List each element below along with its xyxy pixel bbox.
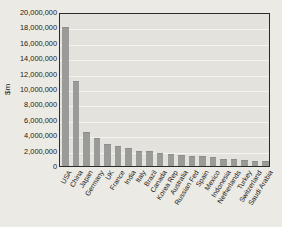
bar: [168, 154, 175, 166]
y-axis-tick-labels: 20,000,00018,000,00016,000,00014,000,000…: [8, 9, 57, 167]
y-axis-tick-label: 10,000,000: [8, 86, 57, 94]
y-axis-tick-label: 4,000,000: [8, 132, 57, 140]
bar: [178, 155, 185, 166]
bars-layer: [60, 14, 269, 166]
y-axis-tick-label: 0: [8, 163, 57, 171]
bar: [231, 159, 238, 166]
y-axis-tick-label: 8,000,000: [8, 101, 57, 109]
bar: [189, 156, 196, 166]
y-axis-tick-label: 14,000,000: [8, 55, 57, 63]
y-axis-tick-label: 6,000,000: [8, 117, 57, 125]
bar: [73, 81, 80, 166]
bar: [199, 156, 206, 166]
plot-area: [59, 13, 270, 167]
bar: [94, 138, 101, 166]
bar: [115, 146, 122, 166]
y-axis-tick-label: 2,000,000: [8, 148, 57, 156]
bar: [157, 153, 164, 166]
y-axis-tick-label: 18,000,000: [8, 24, 57, 32]
bar: [241, 160, 248, 166]
bar: [136, 151, 143, 166]
bar: [104, 144, 111, 166]
bar-chart-figure: $m 20,000,00018,000,00016,000,00014,000,…: [0, 0, 282, 227]
bar: [62, 27, 69, 166]
y-axis-tick-label: 20,000,000: [8, 9, 57, 17]
x-axis-tick-labels: USAChinaJapanGermanyUKFranceIndiaItalyBr…: [59, 167, 270, 225]
bar: [262, 161, 269, 166]
bar: [210, 157, 217, 166]
bar: [252, 161, 259, 166]
bar: [146, 151, 153, 166]
y-axis-tick-label: 12,000,000: [8, 71, 57, 79]
y-axis-tick-label: 16,000,000: [8, 40, 57, 48]
bar: [83, 132, 90, 166]
bar: [125, 148, 132, 166]
bar: [220, 159, 227, 166]
